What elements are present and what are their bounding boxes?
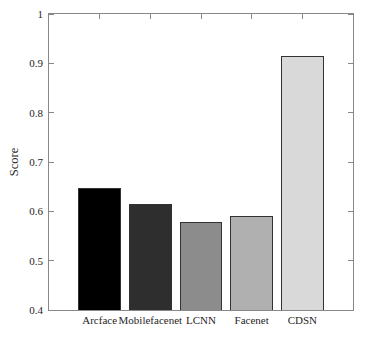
bar-lcnn — [180, 222, 223, 310]
y-tick-mark — [348, 260, 353, 261]
x-tick-mark — [251, 14, 252, 19]
y-tick-label: 1 — [0, 7, 43, 21]
y-tick-mark — [49, 260, 54, 261]
y-tick-label: 0.4 — [0, 303, 43, 317]
y-tick-label: 0.5 — [0, 254, 43, 268]
y-tick-mark — [348, 63, 353, 64]
y-tick-mark — [348, 162, 353, 163]
plot-area — [48, 13, 354, 311]
y-tick-mark — [49, 63, 54, 64]
x-tick-mark — [99, 14, 100, 19]
x-tick-mark — [150, 14, 151, 19]
x-tick-label: CDSN — [242, 313, 362, 327]
y-tick-mark — [348, 112, 353, 113]
y-tick-label: 0.9 — [0, 56, 43, 70]
bar-mobilefacenet — [129, 204, 172, 310]
x-tick-mark — [201, 14, 202, 19]
x-tick-mark — [302, 14, 303, 19]
y-tick-mark — [49, 211, 54, 212]
y-tick-mark — [348, 211, 353, 212]
y-tick-mark — [348, 14, 353, 15]
y-tick-mark — [348, 310, 353, 311]
y-tick-label: 0.6 — [0, 204, 43, 218]
bar-chart-figure: Score 0.40.50.60.70.80.91ArcfaceMobilefa… — [0, 0, 366, 338]
bar-cdsn — [281, 56, 324, 310]
bar-arcface — [78, 188, 121, 310]
y-tick-mark — [49, 112, 54, 113]
bar-facenet — [230, 216, 273, 310]
y-tick-label: 0.8 — [0, 106, 43, 120]
y-tick-mark — [49, 162, 54, 163]
y-tick-mark — [49, 310, 54, 311]
y-tick-label: 0.7 — [0, 155, 43, 169]
y-tick-mark — [49, 14, 54, 15]
